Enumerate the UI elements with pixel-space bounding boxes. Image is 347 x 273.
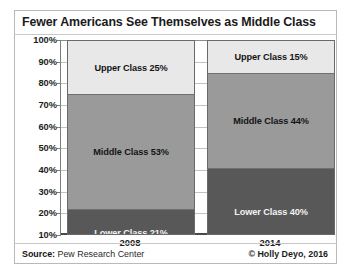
chart-title-box: Fewer Americans See Themselves as Middle… [14,10,337,35]
page-title: Fewer Americans See Themselves as Middle… [22,15,316,29]
y-axis-tick-label: 30% [38,187,57,197]
chart-footer: Source: Pew Research Center © Holly Deyo… [14,243,337,264]
bar-segment-label: Lower Class 21% [94,228,168,235]
plot-wrapper: 10%20%30%40%50%60%70%80%90%100% Upper Cl… [14,35,337,240]
y-axis-tick [57,105,61,106]
source-value: Pew Research Center [55,249,144,259]
y-axis-tick [57,40,61,41]
y-axis-tick-label: 10% [38,230,57,240]
y-axis-tick [57,62,61,63]
bar-segment-label: Middle Class 44% [233,116,309,126]
bar-segment-label: Middle Class 53% [93,147,169,157]
y-axis-tick-label: 100% [33,35,57,45]
y-axis-tick [57,213,61,214]
bar-segment-middle-class[interactable]: Middle Class 44% [208,74,334,169]
bar-segment-upper-class[interactable]: Upper Class 15% [208,41,334,74]
copyright-note: © Holly Deyo, 2016 [248,249,328,259]
bar-segment-upper-class[interactable]: Upper Class 25% [68,41,194,95]
y-axis-tick-label: 50% [38,143,57,153]
y-axis-labels: 10%20%30%40%50%60%70%80%90%100% [14,35,60,240]
y-axis-tick-label: 20% [38,208,57,218]
bar-segment-lower-class[interactable]: Lower Class 21% [68,210,194,235]
bar-segment-label: Upper Class 25% [94,63,167,73]
y-axis-tick-label: 90% [38,57,57,67]
y-axis-tick [57,192,61,193]
source-label: Source: [22,249,55,259]
bar-2014[interactable]: Upper Class 15%Middle Class 44%Lower Cla… [207,40,335,235]
bar-2008[interactable]: Upper Class 25%Middle Class 53%Lower Cla… [67,40,195,235]
y-axis-tick-label: 70% [38,100,57,110]
y-axis-tick-label: 80% [38,78,57,88]
bar-segment-middle-class[interactable]: Middle Class 53% [68,95,194,210]
source-note: Source: Pew Research Center [22,249,144,259]
plot-area: Upper Class 25%Middle Class 53%Lower Cla… [60,40,335,235]
y-axis-tick-label: 60% [38,122,57,132]
y-axis-tick [57,148,61,149]
chart-figure: Fewer Americans See Themselves as Middle… [0,0,347,273]
y-axis-tick-label: 40% [38,165,57,175]
y-axis-tick [57,127,61,128]
bar-segment-lower-class[interactable]: Lower Class 40% [208,169,334,235]
y-axis-tick [57,170,61,171]
bar-segment-label: Upper Class 15% [234,52,307,62]
bar-segment-label: Lower Class 40% [234,207,308,217]
y-axis-tick [57,83,61,84]
